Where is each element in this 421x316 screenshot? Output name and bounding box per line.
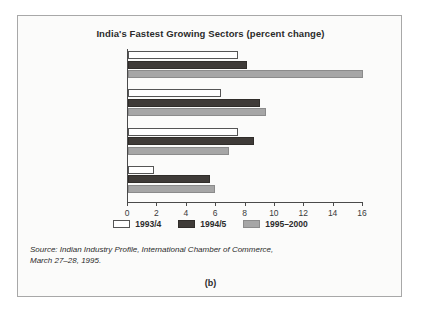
legend-item: 1994/5 [178, 219, 226, 229]
source-line-1: Source: Indian Industry Profile, Interna… [30, 245, 360, 256]
x-tick [127, 202, 128, 206]
x-tick [362, 202, 363, 206]
x-tick-label: 14 [328, 208, 337, 218]
bar [128, 89, 221, 97]
x-tick-label: 16 [357, 208, 366, 218]
x-tick [186, 202, 187, 206]
bar [128, 108, 266, 116]
chart-title: India's Fastest Growing Sectors (percent… [18, 28, 403, 39]
x-tick-label: 6 [213, 208, 218, 218]
x-tick [333, 202, 334, 206]
x-tick-label: 10 [269, 208, 278, 218]
legend-label: 1994/5 [200, 219, 226, 229]
legend-swatch [113, 220, 130, 228]
panel-label: (b) [18, 278, 403, 288]
legend-label: 1995–2000 [265, 219, 308, 229]
x-tick [274, 202, 275, 206]
bar [128, 175, 210, 183]
bar [128, 166, 154, 174]
bar [128, 137, 254, 145]
x-tick-label: 2 [154, 208, 159, 218]
bar [128, 147, 229, 155]
chart-legend: 1993/41994/51995–2000 [18, 219, 403, 229]
x-tick [156, 202, 157, 206]
x-tick-label: 0 [125, 208, 130, 218]
legend-item: 1993/4 [113, 219, 161, 229]
bar [128, 185, 215, 193]
x-tick-label: 4 [183, 208, 188, 218]
x-tick [303, 202, 304, 206]
x-tick-label: 12 [299, 208, 308, 218]
legend-swatch [178, 220, 195, 228]
source-note: Source: Indian Industry Profile, Interna… [30, 245, 360, 267]
x-tick [245, 202, 246, 206]
x-tick-label: 8 [242, 208, 247, 218]
x-tick [215, 202, 216, 206]
legend-swatch [243, 220, 260, 228]
legend-label: 1993/4 [135, 219, 161, 229]
bar [128, 128, 238, 136]
bar [128, 61, 247, 69]
bar [128, 51, 238, 59]
bar [128, 70, 363, 78]
figure-panel: India's Fastest Growing Sectors (percent… [17, 15, 402, 297]
legend-item: 1995–2000 [243, 219, 308, 229]
bar [128, 99, 260, 107]
plot-area: 0246810121416 Electricity GeneratedSalea… [127, 49, 362, 202]
source-line-2: March 27–28, 1995. [30, 256, 360, 267]
